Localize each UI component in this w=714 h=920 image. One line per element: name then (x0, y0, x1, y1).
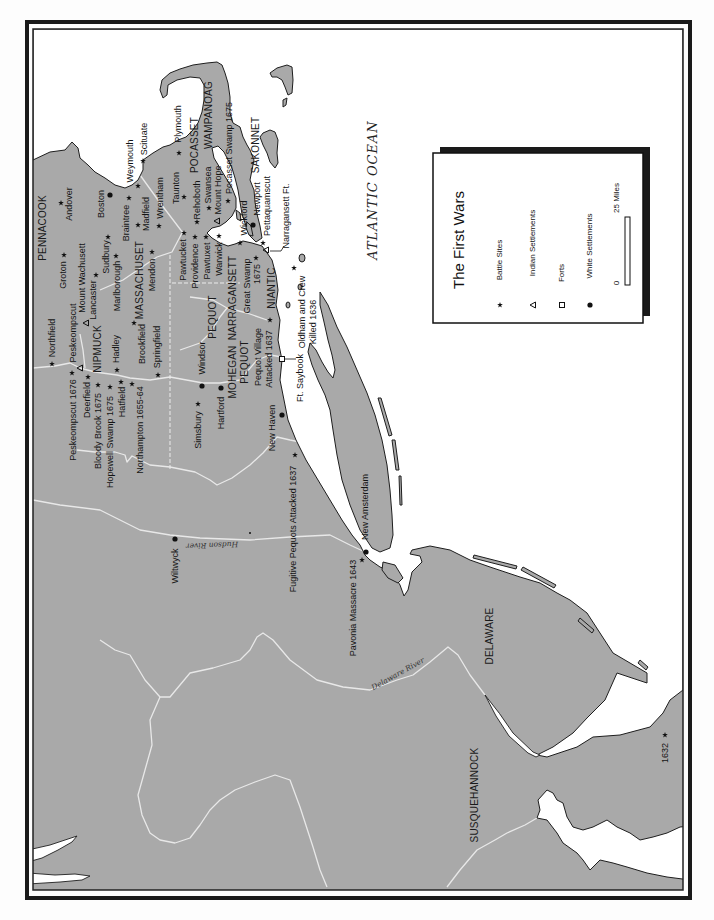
square-icon (560, 303, 565, 308)
scale-min-label: 0 (613, 281, 621, 285)
small-island (286, 302, 290, 308)
place-label: Taunton (172, 172, 181, 204)
white-settlement-marker (279, 412, 284, 417)
place-label: Warwick (215, 242, 224, 276)
place-label: Wrentham (156, 177, 165, 218)
place-label: Madfield (142, 197, 151, 231)
place-label: Lancaster (89, 280, 98, 320)
region-label: PENNACOOK (38, 195, 48, 261)
place-label: Mendon (148, 259, 157, 292)
scale-bar (625, 217, 630, 285)
place-label: Springfield (153, 326, 162, 369)
place-label: Hatfield (118, 387, 127, 418)
place-label: Plymouth (174, 105, 183, 143)
place-label: Hopewell Swamp 1675 (106, 396, 115, 488)
place-label: Swansea (204, 166, 213, 203)
place-label: Providence (191, 243, 200, 288)
place-label: Hartford (217, 397, 226, 430)
place-label: 1675 (253, 264, 262, 284)
place-label: Marlborough (113, 261, 122, 312)
place-label: Windsor (198, 341, 207, 374)
place-label: Brookfield (138, 324, 147, 364)
place-label: Peskeompscut (69, 303, 78, 362)
place-label: Pawtucket (179, 239, 188, 281)
legend-label-indian-settlements: Indian Settlements (529, 210, 537, 276)
region-label: MASSACHUSET (135, 241, 145, 319)
place-label: Scituate (140, 123, 149, 156)
place-label: New Amsterdam (361, 474, 370, 540)
dot-icon (587, 302, 592, 307)
place-label: Andover (65, 187, 74, 221)
region-label: SUSQUEHANNOCK (470, 748, 480, 843)
fort-marker (280, 357, 285, 362)
scale-max-label: 25 Miles (613, 183, 621, 213)
white-settlement-marker (363, 549, 368, 554)
legend-title: The First Wars (451, 191, 466, 289)
place-label: Killed 1636 (309, 300, 318, 345)
place-label: Pawtuxet (203, 242, 212, 279)
hudson-river-label: Hudson River (186, 540, 238, 549)
white-settlement-marker (172, 536, 177, 541)
place-label: Groton (59, 261, 68, 289)
white-settlement-marker (250, 222, 255, 227)
place-label: Pavonia Massacre 1643 (349, 560, 358, 657)
place-label: Bloody Brook 1675 (94, 393, 103, 469)
place-label: Deerfield (83, 382, 92, 418)
region-label: SAKONNET (251, 117, 261, 174)
place-label: Ft. Saybook (296, 354, 305, 402)
place-label: Hadley (112, 335, 121, 363)
place-label: Fugitive Pequots Attacked 1637 (289, 466, 298, 593)
region-label: MOHEGAN (228, 345, 238, 398)
place-label: Sudbury (102, 240, 111, 274)
place-label: Oldham and Crew (298, 276, 307, 349)
legend-label-white-settlements: White Settlements (586, 214, 594, 279)
white-settlement-marker (199, 383, 204, 388)
place-label: Mount Hope (214, 165, 223, 214)
white-settlement-marker (218, 385, 223, 390)
region-label: DELAWARE (485, 608, 495, 665)
place-label: Northfield (48, 319, 57, 358)
place-label: Boston (97, 190, 106, 218)
place-label: Narragansett Ft. (282, 183, 291, 248)
region-label: NARRAGANSETT (228, 256, 238, 341)
region-label: PEQUOT (208, 295, 218, 338)
region-label: NIANTIC (267, 267, 277, 308)
place-label: Wickford (240, 200, 249, 235)
block-island (299, 254, 305, 262)
place-label: Pequot Village (254, 328, 263, 386)
place-label: 1632 (661, 743, 670, 763)
place-label: Great Swamp (243, 258, 252, 313)
place-label: Mount Wachusett (78, 243, 87, 313)
small-map-dot (249, 532, 251, 534)
region-label: POCASSET (190, 117, 200, 173)
place-label: Braintree (122, 205, 131, 242)
place-label: Pettaquamscut (263, 176, 272, 236)
white-settlement-marker (107, 192, 112, 197)
place-label: Weymouth (126, 140, 135, 183)
region-label: PEQUOT (240, 340, 250, 383)
region-label: WAMPANOAG (204, 81, 214, 149)
ocean-label: ATLANTIC OCEAN (366, 120, 379, 260)
map-page: The First Wars Battle Sites Indian Settl… (0, 0, 714, 920)
place-label: Peskeompscut 1676 (69, 379, 78, 461)
region-label: NIPMUCK (93, 325, 103, 373)
barrier-island (399, 476, 402, 505)
legend-label-battle-sites: Battle Sites (496, 240, 504, 280)
place-label: Wiltwyck (171, 549, 180, 584)
legend-label-forts: Forts (558, 264, 566, 282)
place-label: Pocasset Swamp 1675 (225, 102, 234, 194)
place-label: Rehoboth (193, 180, 202, 219)
place-label: New Haven (268, 405, 277, 452)
place-label: Newport (253, 182, 262, 216)
place-label: Northampton 1655-64 (136, 386, 145, 474)
place-label: Simsbury (194, 411, 203, 449)
place-label: Attacked 1637 (265, 330, 274, 388)
